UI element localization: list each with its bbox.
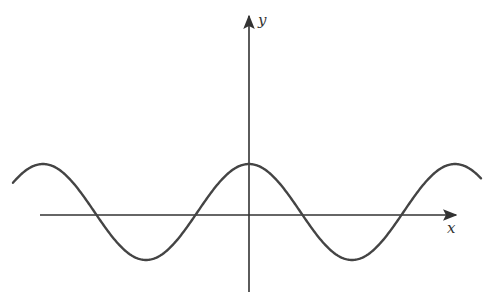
cosine-graph: y x <box>0 0 496 305</box>
cosine-curve <box>13 164 481 260</box>
y-axis-label: y <box>257 11 267 29</box>
x-axis-label: x <box>447 219 456 237</box>
